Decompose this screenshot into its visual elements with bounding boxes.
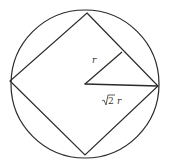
circumradius-label: 2 r (102, 95, 122, 106)
center-point (84, 83, 86, 85)
apothem-line (85, 52, 122, 84)
circumradius-line (85, 84, 158, 86)
sqrt-radicand: 2 (108, 96, 114, 106)
inscribed-square (10, 13, 158, 155)
apothem-label: r (92, 55, 97, 65)
circumradius-var: r (117, 96, 122, 106)
inscribed-square-diagram: r 2 r (0, 0, 171, 168)
